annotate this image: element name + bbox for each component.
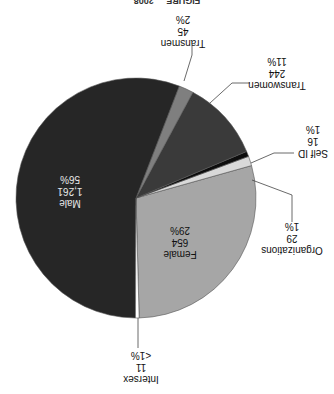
leader-self-id <box>251 153 294 163</box>
svg-text:29%: 29% <box>170 225 190 236</box>
label-intersex: Intersex 11 <1% <box>123 350 159 385</box>
svg-text:11: 11 <box>135 362 146 373</box>
svg-text:654: 654 <box>171 237 188 248</box>
leader-transwomen <box>210 83 250 103</box>
svg-text:244: 244 <box>268 68 285 79</box>
svg-text:Transmen: Transmen <box>161 38 206 49</box>
leader-organizations <box>252 180 292 222</box>
svg-text:<1%: <1% <box>131 350 151 361</box>
svg-text:1,261: 1,261 <box>57 186 82 197</box>
svg-text:2%: 2% <box>176 14 191 25</box>
svg-text:11%: 11% <box>267 56 286 67</box>
figure-title: FIGURE ... 2008 <box>134 0 201 6</box>
svg-text:Intersex: Intersex <box>123 374 159 385</box>
label-transmen: Transmen 45 2% <box>161 14 206 49</box>
svg-text:Organizations: Organizations <box>261 245 323 256</box>
svg-text:29: 29 <box>286 233 298 244</box>
svg-text:1%: 1% <box>306 124 321 135</box>
label-male: Male 1,261 56% <box>57 174 82 209</box>
label-transwomen: Transwomen 244 11% <box>248 56 305 91</box>
svg-text:FIGURE ... 2008: FIGURE ... 2008 <box>134 0 201 6</box>
pie-chart-figure: FIGURE ... 2008 Female 654 29% Male 1,26… <box>0 0 334 394</box>
svg-text:16: 16 <box>307 136 319 147</box>
svg-text:Male: Male <box>59 198 81 209</box>
svg-text:56%: 56% <box>60 174 80 185</box>
svg-text:Transwomen: Transwomen <box>248 80 305 91</box>
label-organizations: Organizations 29 1% <box>261 221 323 256</box>
svg-text:Female: Female <box>163 249 197 260</box>
label-self-id: Self ID 16 1% <box>298 124 328 159</box>
svg-text:45: 45 <box>177 26 189 37</box>
pie-slices <box>16 78 256 318</box>
svg-text:1%: 1% <box>285 221 300 232</box>
svg-text:Self ID: Self ID <box>298 148 328 159</box>
leader-transmen <box>184 45 192 81</box>
